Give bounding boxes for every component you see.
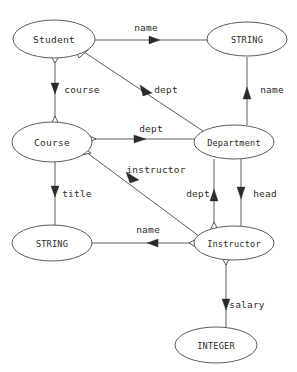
node-string-top[interactable]: STRING <box>207 22 287 56</box>
edge-label-course-instructor: instructor <box>126 164 185 175</box>
edge-label-course-dept: dept <box>139 123 163 134</box>
edge-label-instructor-salary: salary <box>229 299 265 310</box>
edge-label-student-dept: dept <box>154 84 178 95</box>
edge-label-instructor-dept: dept <box>186 188 210 199</box>
edge-label-course-title: title <box>62 188 92 199</box>
node-string-left-label: STRING <box>36 239 68 249</box>
diagram-canvas: Student STRING Course Department STRING <box>0 0 297 372</box>
node-course[interactable]: Course <box>12 122 92 162</box>
arrowhead-student-dept <box>140 85 152 96</box>
arrowhead-department-name <box>243 87 251 99</box>
arrowhead-course-dept <box>134 135 146 143</box>
node-instructor-label: Instructor <box>207 239 261 249</box>
node-department[interactable]: Department <box>194 125 274 159</box>
arrowhead-instructor-dept <box>210 189 218 201</box>
node-instructor[interactable]: Instructor <box>194 226 274 260</box>
er-diagram: Student STRING Course Department STRING <box>0 0 297 372</box>
node-string-left[interactable]: STRING <box>12 225 92 261</box>
edge-label-department-name: name <box>260 84 284 95</box>
edge-label-instructor-name: name <box>136 224 160 235</box>
edge-labels: name course dept name dept instructor ti… <box>62 22 284 310</box>
arrowhead-department-head <box>237 187 245 199</box>
edge-label-student-course: course <box>64 84 100 95</box>
node-student[interactable]: Student <box>13 20 95 58</box>
arrowhead-student-name <box>149 36 160 44</box>
edge-label-student-name: name <box>134 22 158 33</box>
arrowhead-student-course <box>51 83 59 94</box>
node-integer-label: INTEGER <box>197 341 235 351</box>
arrowhead-instructor-name <box>147 239 158 247</box>
node-course-label: Course <box>34 137 70 148</box>
node-department-label: Department <box>207 138 261 148</box>
node-student-label: Student <box>33 34 75 45</box>
node-integer[interactable]: INTEGER <box>175 327 257 363</box>
node-string-top-label: STRING <box>231 35 263 45</box>
edge-label-department-head: head <box>253 188 277 199</box>
arrowhead-course-title <box>51 186 59 197</box>
